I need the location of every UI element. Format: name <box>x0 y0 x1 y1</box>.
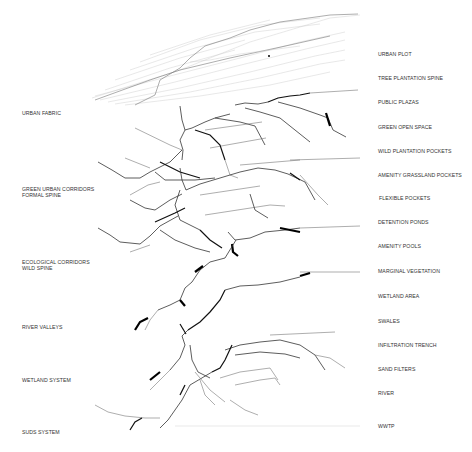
label-suds-system: SUDS SYSTEM <box>22 429 60 435</box>
label-urban-plot: URBAN PLOT <box>378 51 412 57</box>
label-wild-plantation-pockets: WILD PLANTATION POCKETS <box>378 148 452 154</box>
label-river: RIVER <box>378 390 394 396</box>
green-corridors-layer <box>98 90 358 195</box>
label-wetland-system: WETLAND SYSTEM <box>22 377 71 383</box>
label-green-open-space: GREEN OPEN SPACE <box>378 124 432 130</box>
label-public-plazas: PUBLIC PLAZAS <box>378 99 419 105</box>
wetland-system-layer <box>150 272 360 390</box>
label-formal-spine: FORMAL SPINE <box>22 192 61 198</box>
label-amenity-grassland-pockets: AMENITY GRASSLAND POCKETS <box>378 172 462 178</box>
suds-system-layer <box>95 332 360 430</box>
label-sand-filters: SAND FILTERS <box>378 366 415 372</box>
label-urban-fabric: URBAN FABRIC <box>22 110 61 116</box>
label-river-valleys: RIVER VALLEYS <box>22 324 63 330</box>
label-detention-ponds: DETENTION PONDS <box>378 219 429 225</box>
label-flexible-pockets: FLEXIBLE POCKETS <box>379 195 430 201</box>
label-infiltration-trench: INFILTRATION TRENCH <box>378 342 437 348</box>
label-tree-plantation-spine: TREE PLANTATION SPINE <box>378 75 443 81</box>
label-wwtp: WWTP <box>378 423 395 429</box>
river-valleys-layer <box>135 226 360 330</box>
label-amenity-pools: AMENITY POOLS <box>378 243 421 249</box>
label-swales: SWALES <box>378 318 400 324</box>
label-marginal-vegetation: MARGINAL VEGETATION <box>378 268 440 274</box>
label-wetland-area: WETLAND AREA <box>378 293 419 299</box>
axonometric-layer-drawing <box>0 0 472 452</box>
label-wild-spine: WILD SPINE <box>22 265 52 271</box>
urban-fabric-layer <box>92 14 360 105</box>
